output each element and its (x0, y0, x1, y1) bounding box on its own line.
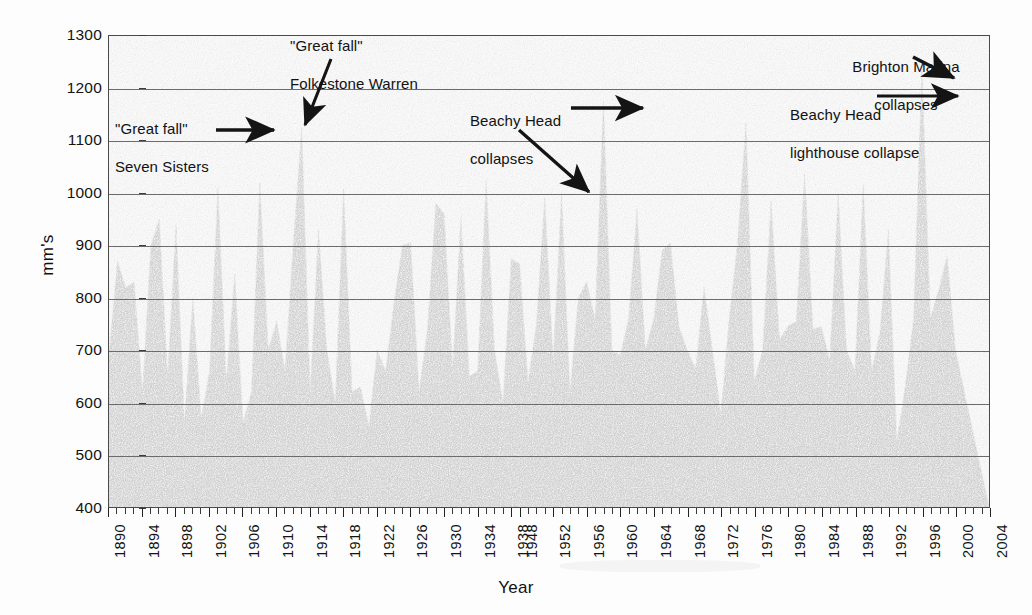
x-tick-mark (570, 508, 571, 514)
x-tick-mark (578, 508, 579, 514)
x-tick-label: 1890 (113, 524, 128, 558)
x-tick-mark (973, 508, 974, 514)
x-tick-label: 1984 (827, 524, 842, 558)
x-tick-mark (318, 508, 319, 514)
x-tick-mark (746, 508, 747, 514)
x-tick-mark (587, 508, 588, 517)
x-tick-mark (730, 508, 731, 514)
x-tick-mark (637, 508, 638, 514)
x-tick-mark (511, 508, 512, 517)
x-tick-label: 2004 (995, 524, 1010, 558)
y-tick-mark (139, 245, 146, 246)
x-tick-mark (595, 508, 596, 514)
x-tick-mark (150, 508, 151, 514)
annotation-beachy-head-collapses: Beachy Head collapses (470, 92, 650, 187)
x-tick-mark (436, 508, 437, 514)
x-tick-mark (108, 508, 109, 517)
y-tick-label: 600 (46, 395, 102, 411)
y-tick-mark (139, 403, 146, 404)
x-tick-mark (906, 508, 907, 514)
x-tick-mark (259, 508, 260, 514)
x-tick-label: 1894 (147, 524, 162, 558)
x-tick-mark (226, 508, 227, 514)
x-tick-mark (948, 508, 949, 514)
annotation-beachy-head-line2: collapses (470, 149, 650, 168)
x-tick-mark (503, 508, 504, 514)
x-tick-mark (956, 508, 957, 517)
x-tick-mark (461, 508, 462, 514)
x-tick-mark (301, 508, 302, 514)
x-tick-mark (326, 508, 327, 514)
gridline (109, 404, 989, 405)
x-tick-mark (830, 508, 831, 514)
x-tick-mark (478, 508, 479, 517)
x-tick-mark (251, 508, 252, 514)
x-tick-mark (553, 508, 554, 517)
x-tick-mark (410, 508, 411, 517)
y-tick-mark (139, 350, 146, 351)
y-tick-mark (139, 88, 146, 89)
x-tick-mark (713, 508, 714, 514)
x-tick-mark (671, 508, 672, 514)
x-tick-mark (604, 508, 605, 514)
y-tick-mark (139, 35, 146, 36)
annotation-folkestone-line2: Folkestone Warren (290, 74, 510, 93)
x-tick-mark (822, 508, 823, 517)
x-tick-mark (931, 508, 932, 514)
x-tick-mark (217, 508, 218, 514)
y-tick-label: 1100 (46, 132, 102, 148)
annotation-seven-sisters-line1: "Great fall" (115, 119, 305, 138)
x-tick-mark (427, 508, 428, 514)
x-tick-label: 1976 (760, 524, 775, 558)
x-tick-mark (965, 508, 966, 514)
x-tick-mark (704, 508, 705, 514)
x-tick-mark (898, 508, 899, 514)
x-tick-label: 1968 (693, 524, 708, 558)
x-tick-label: 1910 (281, 524, 296, 558)
x-tick-mark (293, 508, 294, 514)
y-tick-label: 500 (46, 447, 102, 463)
x-tick-mark (528, 508, 529, 514)
x-tick-mark (175, 508, 176, 517)
x-tick-mark (520, 508, 521, 517)
x-tick-label: 1988 (861, 524, 876, 558)
x-tick-label: 1956 (592, 524, 607, 558)
x-tick-mark (721, 508, 722, 517)
x-tick-label: 1952 (558, 524, 573, 558)
x-tick-mark (494, 508, 495, 514)
x-tick-mark (654, 508, 655, 517)
x-tick-mark (335, 508, 336, 514)
x-tick-mark (805, 508, 806, 514)
x-tick-label: 2000 (961, 524, 976, 558)
x-tick-mark (881, 508, 882, 514)
x-tick-label: 1980 (793, 524, 808, 558)
x-tick-mark (284, 508, 285, 514)
x-tick-label: 1902 (214, 524, 229, 558)
x-tick-label: 1914 (315, 524, 330, 558)
x-tick-mark (872, 508, 873, 514)
x-tick-mark (167, 508, 168, 514)
y-tick-label: 700 (46, 342, 102, 358)
x-tick-label: 1930 (449, 524, 464, 558)
x-tick-mark (755, 508, 756, 517)
gridline (109, 351, 989, 352)
x-tick-mark (158, 508, 159, 514)
x-tick-mark (780, 508, 781, 514)
x-tick-mark (184, 508, 185, 514)
x-tick-mark (856, 508, 857, 517)
x-tick-mark (923, 508, 924, 517)
x-tick-mark (116, 508, 117, 514)
x-tick-mark (629, 508, 630, 514)
x-tick-mark (385, 508, 386, 514)
x-tick-mark (688, 508, 689, 517)
x-tick-label: 1964 (659, 524, 674, 558)
annotation-lighthouse-line2: lighthouse collapse (790, 143, 1000, 162)
x-tick-mark (486, 508, 487, 514)
x-tick-mark (545, 508, 546, 514)
x-tick-mark (343, 508, 344, 517)
x-tick-mark (469, 508, 470, 514)
y-tick-mark (139, 455, 146, 456)
x-tick-mark (662, 508, 663, 514)
x-tick-mark (536, 508, 537, 514)
x-axis-title: Year (0, 578, 1032, 598)
